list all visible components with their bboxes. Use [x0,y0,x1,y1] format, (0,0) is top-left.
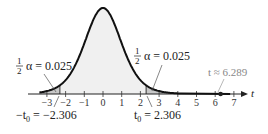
x-tick-label: 7 [231,97,236,108]
left-critical-label: −t0 = −2.306 [16,108,77,124]
x-tick-label: 2 [138,97,143,108]
x-axis-label: t [251,87,255,99]
right-alpha-value: α = 0.025 [144,49,190,63]
x-tick-label: 3 [157,97,162,108]
left-alpha-numerator: 1 [17,56,22,66]
right-alpha-numerator: 1 [135,46,140,56]
test-statistic-point [218,92,223,97]
right-critical-label: t0 = 2.306 [134,108,181,124]
x-tick-label: −1 [79,97,90,108]
x-tick-label: −3 [42,97,53,108]
right-alpha-leader [152,65,162,91]
left-alpha-value: α = 0.025 [26,59,72,73]
x-tick-label: 6 [213,97,218,108]
right-crit-leader [147,96,152,107]
left-alpha-denominator: 2 [17,66,22,76]
x-tick-label: 1 [119,97,124,108]
right-alpha-denominator: 2 [135,56,140,66]
x-tick-label: 0 [101,97,106,108]
x-tick-label: −2 [60,97,71,108]
x-axis-arrow-icon [241,91,248,97]
right-alpha-label: 1 2 α = 0.025 [134,46,190,66]
x-tick-label: 4 [175,97,180,108]
stat-leader [218,79,224,92]
left-alpha-label: 1 2 α = 0.025 [16,56,72,76]
left-crit-leader [54,96,59,107]
x-tick-label: 5 [194,97,199,108]
test-statistic-label: t ≈ 6.289 [208,66,248,78]
t-distribution-chart: −3−2−101234567 1 2 α = 0.025 1 2 α = 0.0… [0,0,268,134]
